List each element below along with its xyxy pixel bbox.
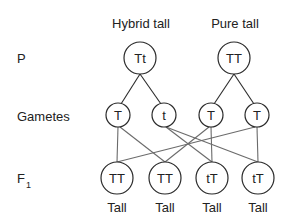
row-label-p: P	[17, 51, 26, 66]
edge-gamete-1-to-f1-1	[117, 127, 118, 162]
f1-genotype-4: tT	[252, 171, 264, 186]
edge-gamete-4-to-f1-1	[117, 127, 255, 162]
f1-phenotype-1: Tall	[107, 200, 127, 215]
f1-node-3: tT Tall	[196, 162, 228, 215]
edge-parent-hybrid-to-gamete-1	[121, 74, 140, 104]
row-label-f1-subscript: 1	[26, 180, 31, 190]
edge-parent-hybrid-to-gamete-2	[140, 74, 161, 104]
genetic-cross-diagram: Hybrid tall Pure tall P Gametes F1 Tt TT	[0, 0, 289, 224]
f1-phenotype-4: Tall	[248, 200, 268, 215]
diagram-canvas: Hybrid tall Pure tall P Gametes F1 Tt TT	[0, 0, 289, 224]
edge-gamete-4-to-f1-4	[257, 127, 258, 162]
edge-gamete-1-to-f1-2	[120, 127, 165, 162]
gamete-allele-2: t	[162, 108, 166, 123]
f1-genotype-2: TT	[157, 171, 173, 186]
f1-genotype-3: tT	[206, 171, 218, 186]
f1-node-4: tT Tall	[242, 162, 274, 215]
parent-title-pure: Pure tall	[211, 16, 259, 31]
parent-genotype-hybrid: Tt	[134, 51, 146, 66]
edge-gamete-3-to-f1-3	[211, 127, 212, 162]
gamete-allele-1: T	[114, 108, 122, 123]
edge-gamete-2-to-f1-3	[166, 127, 212, 162]
gamete-node-2: t	[152, 103, 176, 127]
parent-node-hybrid: Tt	[124, 42, 156, 74]
f1-node-1: TT Tall	[101, 162, 133, 215]
f1-node-2: TT Tall	[149, 162, 181, 215]
edge-parent-pure-to-gamete-3	[214, 74, 234, 104]
row-label-f1-main: F	[17, 171, 25, 186]
gamete-allele-3: T	[207, 108, 215, 123]
parent-node-pure: TT	[218, 42, 250, 74]
f1-phenotype-2: Tall	[155, 200, 175, 215]
parent-genotype-pure: TT	[226, 51, 242, 66]
edge-parent-pure-to-gamete-4	[234, 74, 254, 104]
gamete-node-4: T	[245, 103, 269, 127]
gamete-node-3: T	[199, 103, 223, 127]
row-label-gametes: Gametes	[17, 109, 70, 124]
row-label-f1: F1	[17, 171, 31, 190]
f1-genotype-1: TT	[109, 171, 125, 186]
f1-phenotype-3: Tall	[202, 200, 222, 215]
gamete-node-1: T	[106, 103, 130, 127]
gamete-allele-4: T	[253, 108, 261, 123]
parent-title-hybrid: Hybrid tall	[112, 16, 170, 31]
